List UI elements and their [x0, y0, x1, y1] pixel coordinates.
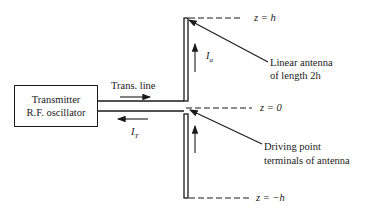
transmitter-box: Transmitter R.F. oscillator [14, 85, 98, 127]
antenna-current-label: Ia [206, 50, 213, 66]
line-current-label: IT [131, 126, 138, 142]
trans-line-label: Trans. line [111, 80, 156, 92]
callout-antenna-line1: Linear antenna [270, 57, 333, 69]
transmitter-label-2: R.F. oscillator [27, 106, 86, 119]
antenna-lower-arm [184, 114, 188, 198]
level-bottom-label: z = −h [256, 192, 285, 204]
level-top-label: z = h [254, 12, 276, 24]
antenna-current-subscript: a [210, 56, 214, 64]
transmitter-label-1: Transmitter [32, 93, 81, 106]
transmission-line [98, 101, 184, 111]
level-middle-label: z = 0 [260, 102, 282, 114]
callout-antenna-line2: of length 2h [270, 70, 321, 82]
line-current-subscript: T [135, 132, 139, 140]
callout-feed-line1: Driving point [264, 141, 321, 153]
antenna-upper-arm [184, 18, 188, 101]
level-lines [186, 18, 252, 198]
callout-feed-line2: terminals of antenna [264, 155, 350, 167]
